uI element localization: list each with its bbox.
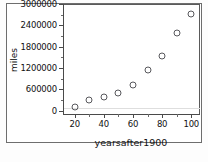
x-axis-label: yearsafter1900 [95, 137, 168, 148]
y-tick-mark [59, 89, 63, 90]
x-tick-minor [89, 114, 90, 117]
data-point [129, 82, 136, 89]
data-point [188, 10, 195, 17]
x-tick-mark [162, 114, 163, 118]
x-tick-minor [177, 114, 178, 117]
data-point [115, 89, 122, 96]
y-tick-label: 600000 [26, 84, 57, 94]
x-tick-mark [104, 114, 105, 118]
x-tick-label: 80 [157, 119, 167, 129]
y-tick-mark [59, 68, 63, 69]
x-tick-mark [75, 114, 76, 118]
x-tick-label: 40 [99, 119, 109, 129]
y-tick-minor [61, 100, 64, 101]
data-point [144, 67, 151, 74]
y-axis-label: miles [9, 48, 19, 72]
y-tick-minor [61, 36, 64, 37]
y-tick-label: 0 [52, 106, 57, 116]
y-tick-mark [59, 47, 63, 48]
x-tick-label: 20 [69, 119, 79, 129]
y-tick-label: 1200000 [21, 63, 57, 73]
x-tick-label: 60 [128, 119, 138, 129]
plot-area [63, 4, 200, 114]
y-tick-mark [59, 25, 63, 26]
data-point [173, 30, 180, 37]
y-tick-minor [61, 79, 64, 80]
data-point [100, 93, 107, 100]
y-tick-mark [59, 4, 63, 5]
data-point [86, 97, 93, 104]
y-tick-label: 2400000 [21, 20, 57, 30]
scatter-plot-figure: 06000001200000180000024000003000000 2040… [0, 0, 208, 162]
y-tick-mark [59, 111, 63, 112]
x-tick-mark [191, 114, 192, 118]
x-tick-label: 100 [183, 119, 199, 129]
x-tick-minor [118, 114, 119, 117]
y-axis-line [63, 4, 64, 114]
x-axis-ticks: 20406080100 [63, 114, 200, 130]
y-tick-minor [61, 57, 64, 58]
x-tick-mark [133, 114, 134, 118]
x-tick-minor [148, 114, 149, 117]
y-tick-label: 3000000 [21, 0, 57, 9]
y-tick-label: 1800000 [21, 42, 57, 52]
zero-baseline [64, 108, 200, 109]
data-point [71, 103, 78, 110]
y-tick-minor [61, 15, 64, 16]
data-point [159, 52, 166, 59]
